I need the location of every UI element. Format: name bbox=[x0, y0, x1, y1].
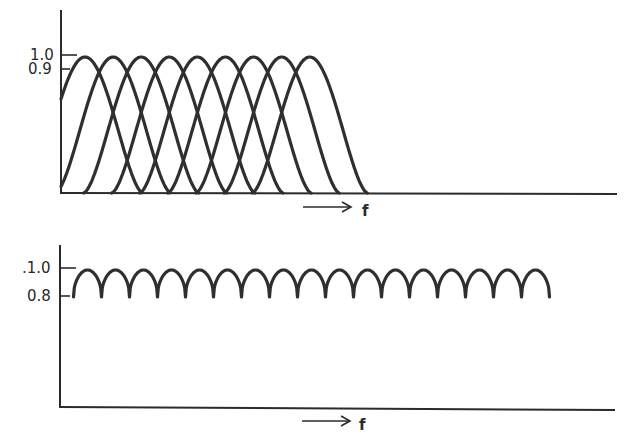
figure: 1.0 0.9 f .1.0 0.8 f bbox=[0, 0, 639, 446]
bottom-x-axis bbox=[59, 407, 615, 410]
filter-response-curves bbox=[61, 57, 367, 193]
bottom-chart: .1.0 0.8 f bbox=[22, 245, 615, 434]
bottom-f-arrow bbox=[302, 416, 350, 426]
top-f-arrow bbox=[303, 202, 351, 212]
summed-response-curve bbox=[74, 270, 550, 297]
bottom-x-label: f bbox=[359, 416, 366, 434]
top-chart: 1.0 0.9 f bbox=[28, 10, 617, 220]
bottom-tick-label-1-0: .1.0 bbox=[22, 259, 51, 277]
bottom-tick-label-0-8: 0.8 bbox=[27, 287, 51, 305]
top-tick-label-0-9: 0.9 bbox=[28, 60, 52, 78]
envelope-curve bbox=[74, 270, 550, 297]
top-x-label: f bbox=[362, 202, 369, 220]
